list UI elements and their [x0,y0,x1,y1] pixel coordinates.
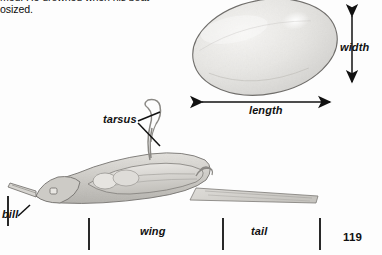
egg-body [184,0,345,107]
label-tarsus: tarsus [103,113,137,125]
body-text-fragment: med. He drowned when his boat osized. [0,0,185,16]
label-length: length [249,104,283,116]
bird-wing [88,163,203,194]
label-bill: bill [2,208,18,220]
tarsus-leader-lower [138,123,160,146]
bird-foot [196,167,213,176]
bird-leg-tarsus [145,100,161,160]
label-width: width [340,41,369,53]
bird-head-and-bill [8,177,80,203]
page-number: 119 [343,231,362,243]
tarsus-leader-upper [138,112,160,121]
measurement-tick-marks [0,0,382,255]
label-tail: tail [251,225,267,237]
callout-leader-lines [0,0,382,255]
bird-tail [190,188,318,203]
egg-illustration [0,0,382,255]
label-wing: wing [140,225,165,237]
bird-illustration [0,0,382,255]
bill-leader [18,205,30,216]
scanned-book-page: med. He drowned when his boat osized. [0,0,382,255]
bird-body [36,153,210,204]
egg-measurement-arrows [0,0,382,255]
